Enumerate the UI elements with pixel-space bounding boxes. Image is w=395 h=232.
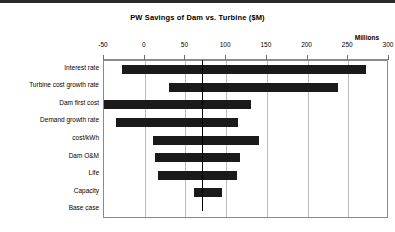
x-tick-mark — [388, 55, 389, 60]
base-case-reference-line — [202, 60, 204, 211]
y-axis-label: Capacity — [74, 188, 99, 195]
x-tick-label: 250 — [327, 41, 367, 48]
tornado-bar — [194, 188, 222, 197]
y-axis-label: Interest rate — [64, 65, 99, 72]
x-tick-label: 50 — [164, 41, 204, 48]
x-tick-label: -50 — [83, 41, 123, 48]
bottom-edge — [0, 230, 395, 232]
y-axis-label: cost/kWh — [72, 135, 99, 142]
tornado-bar — [116, 118, 238, 127]
tornado-bar — [158, 171, 237, 180]
y-axis-label: Base case — [69, 205, 99, 212]
y-axis-label: Demand growth rate — [40, 117, 99, 124]
y-axis-label: Dam O&M — [69, 153, 99, 160]
x-tick-label: 0 — [124, 41, 164, 48]
axis-units-label: Millions — [355, 34, 379, 41]
x-tick-label: 100 — [205, 41, 245, 48]
tornado-bar — [153, 136, 259, 145]
y-axis-label: Turbine cost growth rate — [29, 82, 99, 89]
x-tick-label: 300 — [368, 41, 395, 48]
tornado-bar — [104, 100, 251, 109]
gridline — [348, 61, 349, 217]
tornado-bar — [155, 153, 240, 162]
tornado-bar — [169, 83, 338, 92]
chart-frame: PW Savings of Dam vs. Turbine ($M) Milli… — [0, 0, 395, 232]
y-axis-label: Life — [89, 170, 99, 177]
chart-title: PW Savings of Dam vs. Turbine ($M) — [0, 13, 395, 22]
y-axis-category-labels: Interest rateTurbine cost growth rateDam… — [0, 60, 99, 218]
gridline — [145, 61, 146, 217]
tornado-bar — [122, 65, 366, 74]
y-axis-label: Dam first cost — [59, 100, 99, 107]
x-tick-label: 200 — [287, 41, 327, 48]
x-tick-label: 150 — [246, 41, 286, 48]
plot-area — [103, 60, 388, 218]
